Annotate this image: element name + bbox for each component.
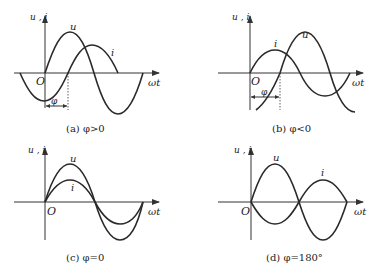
origin-label: O: [36, 75, 45, 88]
u-label: u: [273, 152, 279, 163]
phase-diagram-figure: u , i ωt O u i φ (a) φ>0 u , i ωt O u i …: [0, 0, 373, 277]
panel-b: u , i ωt O u i φ (b) φ<0: [218, 12, 365, 134]
x-axis-label: ωt: [354, 206, 367, 217]
x-axis-label: ωt: [352, 77, 365, 88]
y-axis-label: u , i: [232, 12, 249, 22]
u-curve: [256, 32, 355, 112]
i-label: i: [321, 167, 324, 178]
y-axis-label: u , i: [28, 145, 45, 155]
caption: (a) φ>0: [66, 123, 105, 134]
u-label: u: [70, 21, 76, 32]
u-label: u: [70, 153, 76, 164]
panel-c: u , i ωt O u i (c) φ=0: [14, 145, 161, 263]
panel-d: u , i ωt O u i (d) φ=180°: [218, 145, 367, 263]
phase-label: φ: [51, 96, 58, 106]
caption: (d) φ=180°: [266, 252, 323, 263]
u-label: u: [302, 29, 308, 40]
y-axis-label: u , i: [30, 12, 47, 22]
x-axis-label: ωt: [148, 77, 161, 88]
x-axis-label: ωt: [148, 206, 161, 217]
i-label: i: [111, 47, 114, 58]
i-label: i: [71, 182, 74, 193]
origin-label: O: [47, 205, 56, 218]
y-axis-label: u , i: [234, 145, 251, 155]
panel-a: u , i ωt O u i φ (a) φ>0: [14, 12, 161, 134]
origin-label: O: [241, 205, 250, 218]
caption: (c) φ=0: [66, 252, 104, 263]
caption: (b) φ<0: [272, 123, 311, 134]
origin-label: O: [251, 75, 260, 88]
phase-label: φ: [261, 87, 268, 97]
i-label: i: [274, 38, 277, 49]
